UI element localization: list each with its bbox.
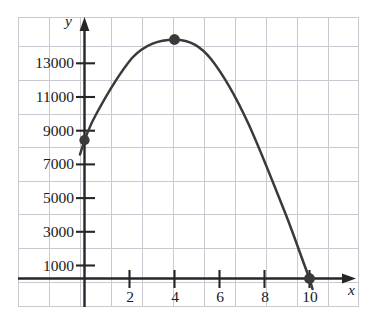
y-axis: [80, 17, 90, 307]
y-tick-label-11000: 11000: [36, 88, 74, 106]
x-tick-label-4: 4: [171, 288, 179, 306]
parabola-curve: [80, 40, 313, 290]
marker-vertex: [169, 34, 180, 45]
x-tick-label-6: 6: [216, 288, 224, 306]
y-tick-label-13000: 13000: [35, 54, 74, 72]
x-tick-label-10: 10: [302, 288, 318, 306]
y-tick-label-1000: 1000: [43, 257, 74, 275]
x-tick-label-8: 8: [261, 288, 269, 306]
x-tick-label-2: 2: [126, 288, 134, 306]
data-point-markers: [79, 34, 315, 284]
marker-x-intercept: [304, 273, 315, 284]
y-tick-label-5000: 5000: [43, 189, 74, 207]
y-axis-label: y: [65, 12, 72, 30]
y-tick-label-7000: 7000: [43, 155, 74, 173]
x-axis-label: x: [348, 281, 355, 299]
marker-y-intercept: [79, 135, 89, 145]
y-tick-label-9000: 9000: [43, 122, 74, 140]
graph-figure: 13000 11000 9000 7000 5000 3000 1000 2 4…: [0, 0, 367, 316]
y-tick-label-3000: 3000: [43, 223, 74, 241]
